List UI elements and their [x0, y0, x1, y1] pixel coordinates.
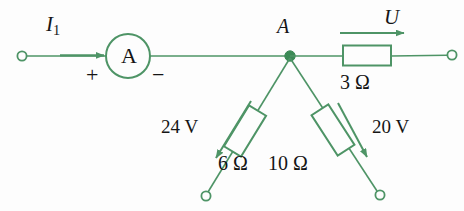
resistor-6ohm-label: 6 Ω	[218, 153, 248, 173]
lower-right-terminal-icon[interactable]	[375, 190, 384, 199]
resistor-6ohm-body	[224, 105, 266, 156]
polarity-minus-label: −	[152, 64, 164, 86]
branch-10ohm	[290, 58, 385, 200]
right-terminal-icon[interactable]	[447, 50, 456, 59]
branch-6ohm	[201, 58, 290, 201]
resistor-3ohm-label: 3 Ω	[340, 72, 370, 92]
circuit-diagram-canvas: I1 + − A U 3 Ω 24 V 6 Ω 20 V 10 Ω A	[0, 0, 464, 211]
current-label-I1: I1	[46, 14, 60, 37]
node-A-label: A	[277, 16, 289, 36]
resistor-10ohm-label: 10 Ω	[268, 153, 308, 173]
polarity-plus-label: +	[86, 64, 98, 86]
lower-left-terminal-icon[interactable]	[201, 191, 210, 200]
current-label-I1-subscript: 1	[53, 22, 60, 38]
ammeter-letter-label: A	[121, 45, 137, 67]
left-terminal-icon[interactable]	[17, 51, 26, 60]
current-label-I1-text: I	[46, 12, 53, 36]
voltage-label-U: U	[384, 7, 399, 28]
circuit-schematic	[0, 0, 464, 211]
wire-r3-to-right-terminal	[391, 55, 447, 56]
resistor-10ohm-body	[312, 104, 355, 155]
resistor-3ohm-body	[343, 46, 391, 66]
source-24v-label: 24 V	[161, 117, 198, 136]
source-20v-label: 20 V	[372, 117, 409, 136]
main-horizontal-branch	[17, 33, 456, 78]
